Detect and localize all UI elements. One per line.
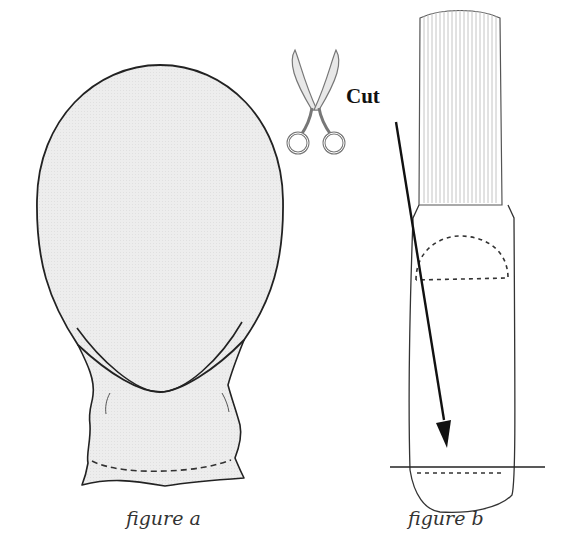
scissors-icon [288, 50, 344, 153]
figure-b-ribbed-cuff [419, 11, 502, 206]
figure-a-caption: figure a [126, 507, 201, 529]
sewing-instruction-diagram: Cut figure a figure b [0, 0, 576, 560]
figure-b-caption: figure b [408, 507, 484, 529]
figure-a-head-oval [37, 65, 283, 392]
cut-label: Cut [346, 84, 380, 109]
figure-a-head-form [37, 65, 283, 486]
figure-b-heel-dashed [416, 236, 508, 280]
diagram-canvas [0, 0, 576, 560]
figure-b-sock [390, 10, 545, 512]
